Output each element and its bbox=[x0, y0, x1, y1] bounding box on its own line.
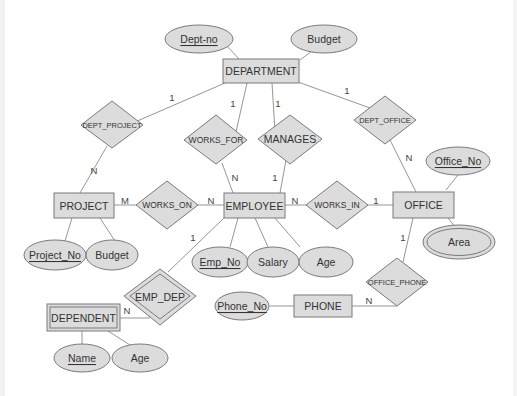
attribute-label: Age bbox=[317, 256, 336, 268]
entity-label: DEPENDENT bbox=[51, 312, 116, 324]
attribute-label-key: Office_No bbox=[435, 155, 482, 167]
entity-department[interactable]: DEPARTMENT bbox=[223, 59, 299, 83]
cardinality-dept-office-office: N bbox=[406, 152, 413, 163]
relationship-label: EMP_DEP bbox=[135, 291, 185, 303]
relationship-works-in[interactable]: WORKS_IN bbox=[306, 181, 368, 229]
cardinality-department-works-for: 1 bbox=[230, 98, 235, 109]
relationship-works-on[interactable]: WORKS_ON bbox=[136, 181, 198, 229]
entity-label: OFFICE bbox=[404, 199, 443, 211]
relationship-label: OFFICE_PHONE bbox=[368, 278, 426, 287]
attribute-area-multivalued[interactable]: Area bbox=[423, 225, 495, 259]
entity-employee[interactable]: EMPLOYEE bbox=[224, 193, 285, 218]
relationship-label: MANAGES bbox=[264, 133, 317, 145]
entity-project[interactable]: PROJECT bbox=[54, 193, 114, 218]
entity-label: DEPARTMENT bbox=[225, 65, 297, 77]
attribute-phone-no[interactable]: Phone_No bbox=[215, 292, 269, 320]
cardinality-department-dept-project: 1 bbox=[169, 92, 174, 103]
cardinality-office-phone-phone: N bbox=[366, 295, 373, 306]
attribute-label: Area bbox=[448, 236, 470, 248]
relationship-dept-project[interactable]: DEPT_PROJECT bbox=[81, 101, 143, 148]
attribute-label: Budget bbox=[307, 33, 340, 45]
relationship-label: DEPT_PROJECT bbox=[82, 121, 142, 130]
relationship-label: WORKS_ON bbox=[142, 200, 192, 210]
attribute-salary[interactable]: Salary bbox=[247, 247, 299, 277]
relationship-manages[interactable]: MANAGES bbox=[258, 115, 322, 164]
cardinality-project-works-on: M bbox=[121, 195, 129, 206]
entity-label: PHONE bbox=[304, 300, 341, 312]
cardinality-works-in-office: 1 bbox=[373, 195, 378, 206]
attribute-label-key: Project_No bbox=[29, 249, 81, 261]
cardinality-manages-employee: 1 bbox=[272, 172, 277, 183]
attribute-project-no[interactable]: Project_No bbox=[24, 240, 86, 270]
attribute-office-no[interactable]: Office_No bbox=[426, 147, 490, 175]
attribute-label: Age bbox=[131, 352, 150, 364]
attribute-label-key: Name bbox=[68, 352, 96, 364]
entity-label: EMPLOYEE bbox=[226, 200, 284, 212]
attribute-dept-no[interactable]: Dept-no bbox=[165, 25, 233, 53]
relationship-label: WORKS_FOR bbox=[189, 135, 244, 145]
cardinality-employee-works-in: N bbox=[292, 195, 299, 206]
cardinality-works-for-employee: N bbox=[232, 172, 239, 183]
attribute-label: Salary bbox=[258, 256, 289, 268]
cardinality-department-dept-office: 1 bbox=[344, 85, 349, 96]
attribute-dependent-age[interactable]: Age bbox=[112, 344, 168, 372]
attribute-employee-age[interactable]: Age bbox=[299, 247, 353, 277]
entity-dependent-weak[interactable]: DEPENDENT bbox=[47, 304, 120, 331]
attribute-emp-no[interactable]: Emp_No bbox=[192, 247, 248, 277]
attribute-label: Budget bbox=[95, 249, 128, 261]
cardinality-emp-dep-dependent: N bbox=[124, 305, 131, 316]
relationship-label: WORKS_IN bbox=[314, 200, 359, 210]
attribute-dependent-name[interactable]: Name bbox=[54, 344, 110, 372]
relationship-dept-office[interactable]: DEPT_OFFICE bbox=[354, 96, 416, 144]
entity-office[interactable]: OFFICE bbox=[393, 192, 454, 218]
cardinality-employee-emp-dep: 1 bbox=[190, 232, 195, 243]
entity-phone[interactable]: PHONE bbox=[294, 295, 352, 317]
entity-label: PROJECT bbox=[59, 200, 109, 212]
cardinality-works-on-employee: N bbox=[208, 195, 215, 206]
er-diagram: 1 1 1 1 N N 1 N M N N 1 1 N 1 N DEPARTME… bbox=[0, 0, 517, 396]
relationship-label: DEPT_OFFICE bbox=[359, 116, 411, 125]
relationship-emp-dep-identifying[interactable]: EMP_DEP bbox=[124, 269, 196, 325]
relationship-works-for[interactable]: WORKS_FOR bbox=[184, 115, 247, 164]
cardinality-department-manages: 1 bbox=[275, 98, 280, 109]
attribute-label-key: Dept-no bbox=[180, 33, 218, 45]
cardinality-dept-project-project: N bbox=[91, 165, 98, 176]
attribute-label-key: Emp_No bbox=[200, 256, 241, 268]
attribute-department-budget[interactable]: Budget bbox=[291, 25, 357, 53]
relationship-office-phone[interactable]: OFFICE_PHONE bbox=[366, 258, 428, 306]
cardinality-office-office-phone: 1 bbox=[400, 232, 405, 243]
attribute-label-key: Phone_No bbox=[217, 300, 267, 312]
attribute-project-budget[interactable]: Budget bbox=[86, 240, 138, 270]
